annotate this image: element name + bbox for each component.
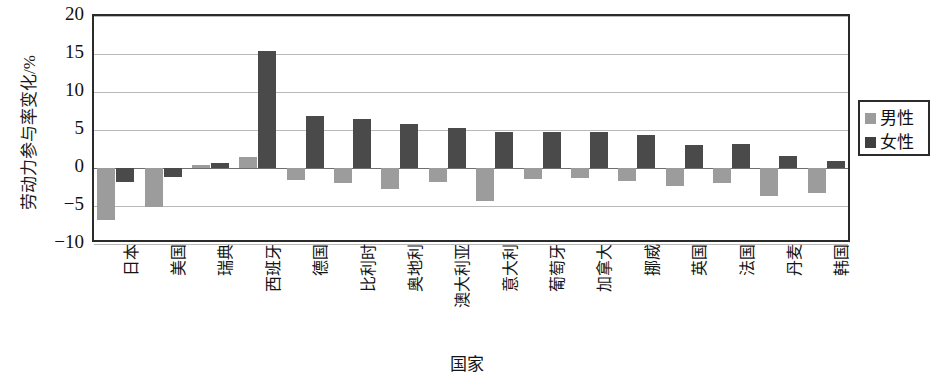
- x-axis-category-label: 德国: [313, 244, 329, 354]
- bar-male: [287, 168, 305, 180]
- y-axis-tick-label: 15: [28, 42, 84, 61]
- x-axis-category-label: 葡萄牙: [550, 244, 566, 354]
- bar-female: [211, 163, 229, 168]
- bar-male: [239, 157, 257, 168]
- legend-item-female: 女性: [865, 130, 925, 154]
- y-axis-tick-label: −10: [28, 232, 84, 251]
- legend-item-male: 男性: [865, 106, 925, 130]
- legend-label-female: 女性: [880, 134, 914, 151]
- bar-male: [192, 165, 210, 168]
- bar-female: [258, 51, 276, 168]
- legend-label-male: 男性: [880, 110, 914, 127]
- y-axis-tick-label: 5: [28, 118, 84, 137]
- bar-male: [429, 168, 447, 182]
- bar-female: [543, 132, 561, 168]
- x-axis-category-label: 美国: [171, 244, 187, 354]
- bar-male: [571, 168, 589, 178]
- x-axis-category-label: 瑞典: [218, 244, 234, 354]
- y-axis-tick-label: 20: [28, 4, 84, 23]
- x-axis-title: 国家: [0, 350, 934, 375]
- bar-female: [353, 119, 371, 168]
- gridline: [94, 54, 848, 55]
- bar-male: [334, 168, 352, 183]
- x-axis-category-label: 澳大利亚: [455, 244, 471, 354]
- bar-female: [448, 128, 466, 168]
- x-axis-category-label: 法国: [740, 244, 756, 354]
- bar-male: [713, 168, 731, 183]
- x-axis-category-label: 英国: [692, 244, 708, 354]
- x-axis-category-label: 日本: [124, 244, 140, 354]
- gridline: [94, 206, 848, 207]
- y-axis-tick-label: 10: [28, 80, 84, 99]
- bar-male: [97, 168, 115, 220]
- y-axis-tick-label: −5: [28, 194, 84, 213]
- bar-female: [732, 144, 750, 168]
- gridline: [94, 92, 848, 93]
- bar-male: [666, 168, 684, 186]
- bar-male: [524, 168, 542, 179]
- bar-female: [306, 116, 324, 168]
- legend-swatch-female-icon: [865, 137, 876, 148]
- bar-male: [381, 168, 399, 189]
- bar-female: [164, 168, 182, 177]
- bar-male: [476, 168, 494, 201]
- bar-male: [808, 168, 826, 193]
- x-axis-category-label: 挪威: [645, 244, 661, 354]
- bar-female: [495, 132, 513, 168]
- x-axis-category-label: 韩国: [834, 244, 850, 354]
- gridline: [94, 130, 848, 131]
- bar-female: [400, 124, 418, 168]
- bar-female: [779, 156, 797, 168]
- chart-figure: 劳动力参与率变化/% 20151050−5−10 日本美国瑞典西班牙德国比利时奥…: [0, 0, 934, 377]
- zero-line: [94, 168, 848, 169]
- x-axis-category-label: 意大利: [503, 244, 519, 354]
- bar-female: [637, 135, 655, 168]
- plot-area: [92, 14, 850, 242]
- x-axis-category-label: 奥地利: [408, 244, 424, 354]
- bar-male: [145, 168, 163, 207]
- x-axis-category-labels: 日本美国瑞典西班牙德国比利时奥地利澳大利亚意大利葡萄牙加拿大挪威英国法国丹麦韩国: [92, 244, 850, 354]
- bar-female: [116, 168, 134, 182]
- y-axis-tick-label: 0: [28, 156, 84, 175]
- x-axis-category-label: 西班牙: [266, 244, 282, 354]
- bar-female: [590, 132, 608, 168]
- x-axis-category-label: 比利时: [361, 244, 377, 354]
- gridline: [94, 16, 848, 17]
- legend-swatch-male-icon: [865, 113, 876, 124]
- bar-female: [827, 161, 845, 168]
- bar-male: [760, 168, 778, 196]
- y-axis-tick-labels: 20151050−5−10: [26, 0, 84, 260]
- x-axis-category-label: 加拿大: [597, 244, 613, 354]
- bar-male: [618, 168, 636, 181]
- chart-legend: 男性 女性: [858, 100, 930, 156]
- x-axis-category-label: 丹麦: [787, 244, 803, 354]
- bar-female: [685, 145, 703, 168]
